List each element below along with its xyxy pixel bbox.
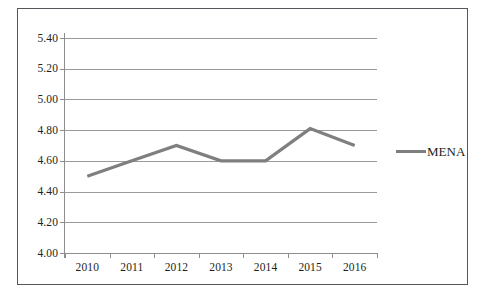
y-axis-tick-label: 4.60: [18, 155, 58, 167]
x-axis-tick-label: 2010: [64, 262, 110, 274]
x-axis-tick-label: 2015: [287, 262, 333, 274]
legend-line-swatch-icon: [396, 150, 426, 153]
y-axis-tick-label: 5.20: [18, 63, 58, 75]
x-tick-mark: [110, 253, 111, 258]
y-axis-tick-label: 4.40: [18, 186, 58, 198]
x-axis-tick-label: 2014: [243, 262, 289, 274]
x-tick-mark: [199, 253, 200, 258]
x-tick-mark: [243, 253, 244, 258]
x-tick-mark: [154, 253, 155, 258]
gridline-5-00: [65, 99, 377, 100]
y-axis-tick-label: 4.00: [18, 248, 58, 260]
gridline-4-80: [65, 130, 377, 131]
y-tick-mark: [60, 222, 65, 223]
gridline-4-40: [65, 192, 377, 193]
gridline-5-40: [65, 38, 377, 39]
plot-area: [65, 38, 377, 253]
x-axis-tick-label: 2013: [198, 262, 244, 274]
x-tick-mark: [332, 253, 333, 258]
x-axis-line: [65, 253, 377, 254]
gridline-4-20: [65, 222, 377, 223]
y-axis-tick-label: 4.80: [18, 125, 58, 137]
y-tick-mark: [60, 130, 65, 131]
legend: MENA: [396, 142, 465, 160]
y-axis-line: [64, 33, 65, 258]
y-axis-tick-label: 5.40: [18, 33, 58, 45]
y-axis-tick-label: 5.00: [18, 94, 58, 106]
y-tick-mark: [60, 99, 65, 100]
y-axis-labels: 5.40 5.20 5.00 4.80 4.60 4.40 4.20 4.00: [14, 0, 58, 305]
gridline-4-60: [65, 161, 377, 162]
x-axis-tick-label: 2016: [332, 262, 378, 274]
x-axis-tick-label: 2012: [153, 262, 199, 274]
chart-figure: 5.40 5.20 5.00 4.80 4.60 4.40 4.20 4.00 …: [0, 0, 485, 305]
x-tick-mark: [288, 253, 289, 258]
y-tick-mark: [60, 69, 65, 70]
gridline-5-20: [65, 69, 377, 70]
y-tick-mark: [60, 192, 65, 193]
x-tick-mark: [377, 253, 378, 258]
y-tick-mark: [60, 161, 65, 162]
legend-item-label: MENA: [427, 145, 465, 158]
x-tick-mark: [65, 253, 66, 258]
y-tick-mark: [60, 38, 65, 39]
y-axis-tick-label: 4.20: [18, 217, 58, 229]
x-axis-tick-label: 2011: [109, 262, 155, 274]
